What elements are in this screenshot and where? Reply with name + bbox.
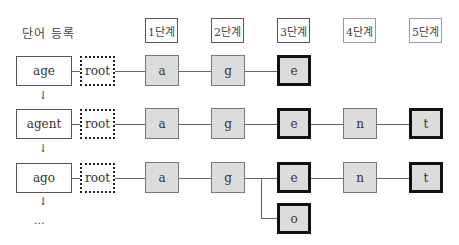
connector (311, 178, 343, 179)
word-box-ago: ago (16, 163, 72, 193)
down-arrow-icon: ↓ (37, 196, 49, 207)
connector (179, 178, 211, 179)
trie-node-n: n (343, 108, 377, 139)
trie-node-n: n (343, 162, 377, 193)
stage-header-3: 3단계 (277, 18, 310, 43)
stage-header-1: 1단계 (145, 18, 178, 43)
connector (72, 71, 80, 72)
trie-node-e-end: e (277, 55, 311, 86)
trie-node-a: a (145, 108, 179, 139)
trie-node-e-end: e (277, 108, 311, 139)
branch-connector (261, 218, 277, 219)
connector (179, 71, 211, 72)
connector (245, 124, 277, 125)
trie-node-t-end: t (409, 108, 443, 139)
connector (311, 124, 343, 125)
ellipsis: ... (34, 214, 45, 227)
connector (179, 124, 211, 125)
word-box-agent: agent (16, 109, 72, 139)
stage-header-2: 2단계 (211, 18, 244, 43)
connector (115, 178, 145, 179)
connector (115, 124, 145, 125)
trie-node-g: g (211, 162, 245, 193)
stage-header-4: 4단계 (343, 18, 376, 43)
connector (245, 71, 277, 72)
stage-header-5: 5단계 (409, 18, 442, 43)
connector (377, 178, 409, 179)
connector (377, 124, 409, 125)
trie-node-a: a (145, 55, 179, 86)
trie-node-g: g (211, 55, 245, 86)
diagram-title: 단어 등록 (22, 24, 75, 41)
root-node: root (80, 163, 115, 193)
trie-node-o-end: o (277, 203, 311, 234)
word-box-age: age (16, 56, 72, 86)
branch-connector (261, 178, 262, 219)
connector (72, 178, 80, 179)
down-arrow-icon: ↓ (37, 90, 49, 101)
root-node: root (80, 109, 115, 139)
trie-node-g: g (211, 108, 245, 139)
trie-node-a: a (145, 162, 179, 193)
trie-node-e-end: e (277, 162, 311, 193)
connector (115, 71, 145, 72)
trie-node-t-end: t (409, 162, 443, 193)
down-arrow-icon: ↓ (37, 143, 49, 154)
connector (72, 124, 80, 125)
root-node: root (80, 56, 115, 86)
